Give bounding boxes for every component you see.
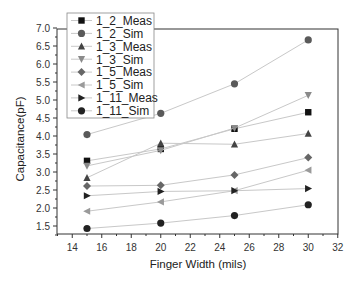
series-line: [87, 205, 308, 229]
legend-label: 1_2_Sim: [96, 27, 143, 41]
legend-label: 1_2_Meas: [96, 14, 152, 28]
circle-marker-icon: [83, 225, 90, 232]
circle-marker-icon: [78, 30, 85, 37]
triangle-right-marker-icon: [305, 185, 312, 192]
y-tick-label: 3.0: [36, 167, 50, 178]
legend-label: 1_11_Sim: [96, 104, 149, 118]
diamond-marker-icon: [83, 182, 91, 190]
y-tick-label: 6.0: [36, 59, 50, 70]
y-tick-label: 1.5: [36, 221, 50, 232]
circle-marker-icon: [157, 220, 164, 227]
triangle-right-marker-icon: [84, 192, 91, 199]
x-tick-label: 14: [67, 242, 79, 253]
triangle-left-marker-icon: [304, 167, 311, 174]
chart: 14161820222426283032 1.52.02.53.03.54.04…: [0, 0, 357, 283]
legend-label: 1_11_Meas: [96, 91, 158, 105]
series-1-11-meas: [84, 185, 312, 199]
x-tick-label: 28: [273, 242, 285, 253]
legend: 1_2_Meas1_2_Sim1_3_Meas1_3_Sim1_5_Meas1_…: [67, 13, 158, 118]
circle-marker-icon: [83, 131, 90, 138]
y-tick-label: 2.5: [36, 185, 50, 196]
y-tick-label: 3.5: [36, 149, 50, 160]
x-tick-label: 22: [185, 242, 197, 253]
square-marker-icon: [305, 109, 311, 115]
diamond-marker-icon: [231, 171, 239, 179]
series-line: [87, 112, 308, 161]
series-line: [87, 189, 308, 196]
series-1-11-sim: [83, 201, 311, 232]
square-marker-icon: [78, 17, 84, 23]
circle-marker-icon: [231, 212, 238, 219]
x-tick-label: 30: [303, 242, 315, 253]
x-tick-label: 16: [96, 242, 108, 253]
triangle-down-marker-icon: [305, 92, 312, 99]
legend-label: 1_3_Sim: [96, 53, 143, 67]
triangle-up-marker-icon: [83, 174, 90, 181]
x-tick-label: 20: [155, 242, 167, 253]
circle-marker-icon: [305, 36, 312, 43]
circle-marker-icon: [157, 110, 164, 117]
y-tick-label: 4.0: [36, 131, 50, 142]
x-tick-label: 18: [126, 242, 138, 253]
y-tick-label: 5.5: [36, 77, 50, 88]
y-axis: 1.52.02.53.03.54.04.55.05.56.06.57.0: [36, 23, 57, 236]
x-axis: 14161820222426283032: [58, 234, 344, 253]
circle-marker-icon: [305, 201, 312, 208]
x-tick-label: 26: [244, 242, 256, 253]
triangle-left-marker-icon: [83, 208, 90, 215]
legend-label: 1_3_Meas: [96, 40, 152, 54]
triangle-left-marker-icon: [157, 198, 164, 205]
series-1-3-meas: [83, 130, 311, 181]
diamond-marker-icon: [304, 154, 312, 162]
x-axis-title: Finger Width (mils): [150, 258, 247, 270]
triangle-up-marker-icon: [305, 130, 312, 137]
y-tick-label: 7.0: [36, 23, 50, 34]
x-tick-label: 32: [332, 242, 344, 253]
x-tick-label: 24: [214, 242, 226, 253]
circle-marker-icon: [231, 80, 238, 87]
y-tick-label: 2.0: [36, 203, 50, 214]
legend-label: 1_5_Sim: [96, 78, 143, 92]
y-tick-label: 5.0: [36, 95, 50, 106]
y-tick-label: 6.5: [36, 41, 50, 52]
y-axis-title: Capacitance(pF): [14, 96, 26, 181]
y-tick-label: 4.5: [36, 113, 50, 124]
triangle-down-marker-icon: [83, 163, 90, 170]
legend-label: 1_5_Meas: [96, 65, 152, 79]
circle-marker-icon: [78, 107, 85, 114]
